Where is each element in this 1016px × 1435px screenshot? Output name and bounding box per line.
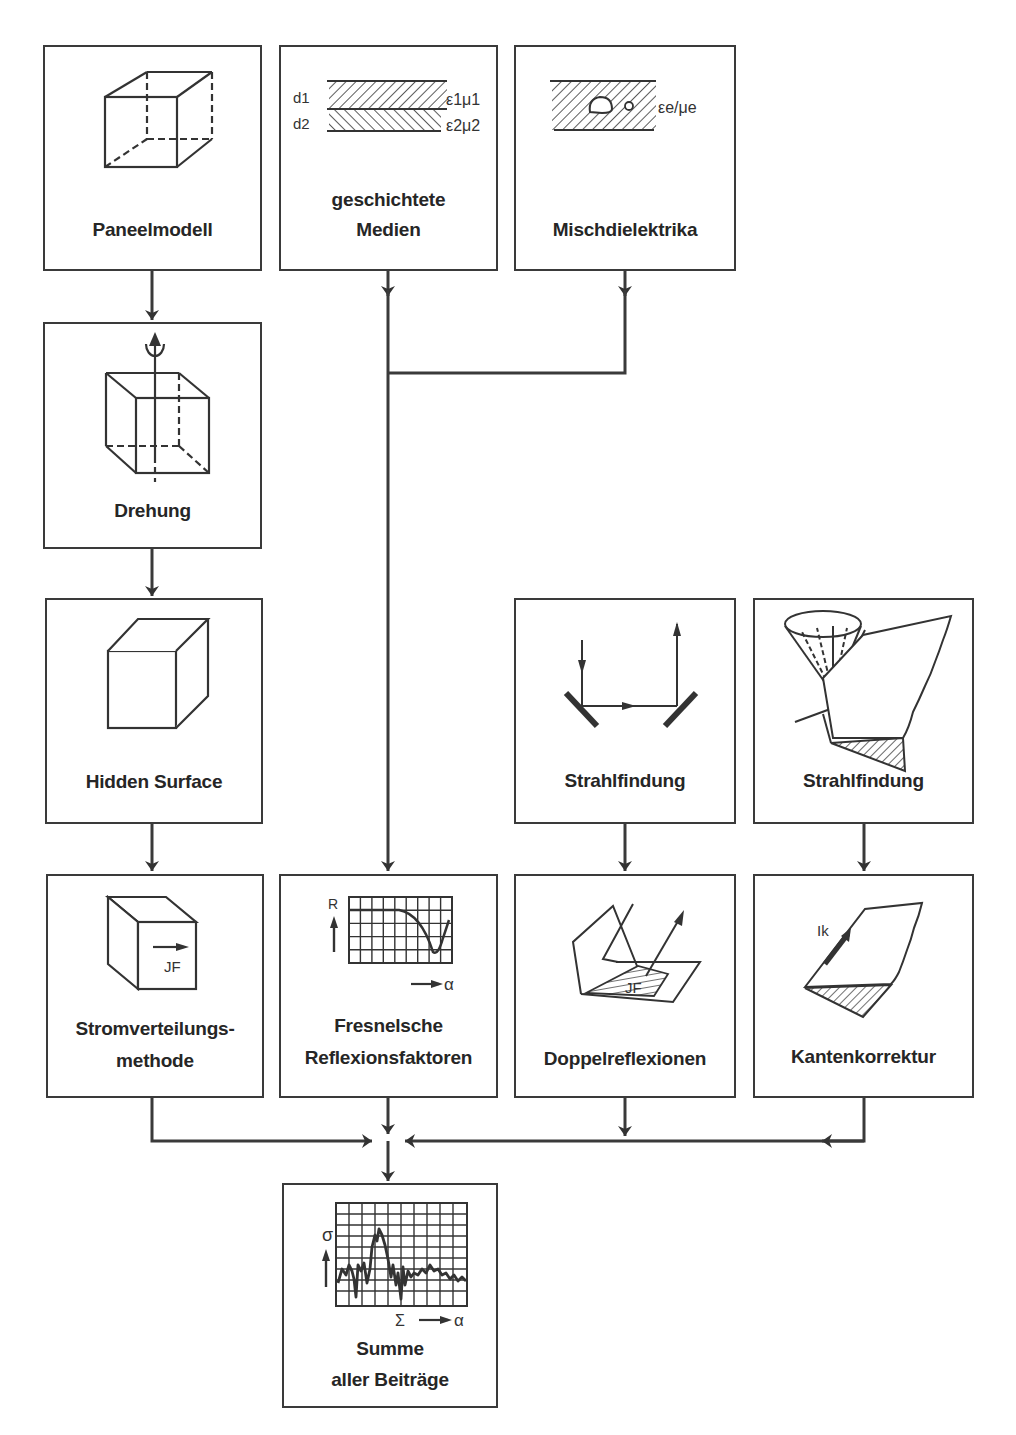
box-stromverteilung: JF Stromverteilungs- methode	[46, 874, 264, 1098]
label-strahlfindung-2: Strahlfindung	[755, 768, 972, 794]
box-mischdielektrika: εe/μe Mischdielektrika	[514, 45, 736, 271]
svg-text:d1: d1	[293, 89, 310, 106]
box-geschichtete-medien: d1 d2 ε1μ1 ε2μ2 geschichtete Medien	[279, 45, 498, 271]
label-geschichtete-medien-2: Medien	[281, 217, 496, 243]
svg-text:ε1μ1: ε1μ1	[446, 91, 480, 108]
label-summe-2: aller Beiträge	[284, 1367, 496, 1393]
label-mischdielektrika: Mischdielektrika	[516, 217, 734, 243]
line-kanten-bus	[822, 1096, 864, 1141]
svg-text:ε2μ2: ε2μ2	[446, 117, 480, 134]
label-doppelreflexionen: Doppelreflexionen	[516, 1046, 734, 1072]
box-fresnel: R α Fresnelsche Reflexionsfaktoren	[279, 874, 498, 1098]
label-geschichtete-medien-1: geschichtete	[281, 187, 496, 213]
svg-text:Σ: Σ	[395, 1312, 405, 1329]
svg-text:R: R	[328, 896, 338, 912]
label-stromverteilung-2: methode	[48, 1048, 262, 1074]
label-summe-1: Summe	[284, 1336, 496, 1362]
box-hidden-surface: Hidden Surface	[45, 598, 263, 824]
svg-text:σ: σ	[322, 1225, 333, 1245]
label-strahlfindung-1: Strahlfindung	[516, 768, 734, 794]
label-stromverteilung-1: Stromverteilungs-	[48, 1016, 262, 1042]
label-hidden-surface: Hidden Surface	[47, 769, 261, 795]
box-kantenkorrektur: Ik Kantenkorrektur	[753, 874, 974, 1098]
box-summe: σ Σ α Summe aller Beiträge	[282, 1183, 498, 1408]
label-paneelmodell: Paneelmodell	[45, 217, 260, 243]
svg-text:Ik: Ik	[817, 922, 829, 939]
svg-text:α: α	[454, 1311, 464, 1330]
label-fresnel-2: Reflexionsfaktoren	[281, 1045, 496, 1071]
box-strahlfindung-2: Strahlfindung	[753, 598, 974, 824]
svg-text:JF: JF	[625, 979, 642, 996]
line-misch-merge	[388, 290, 625, 373]
svg-text:d2: d2	[293, 115, 310, 132]
box-doppelreflexionen: JF Doppelreflexionen	[514, 874, 736, 1098]
svg-text:α: α	[444, 975, 454, 994]
box-strahlfindung-1: Strahlfindung	[514, 598, 736, 824]
label-fresnel-1: Fresnelsche	[281, 1013, 496, 1039]
label-drehung: Drehung	[45, 498, 260, 524]
box-paneelmodell: Paneelmodell	[43, 45, 262, 271]
svg-text:JF: JF	[164, 958, 181, 975]
label-kantenkorrektur: Kantenkorrektur	[755, 1044, 972, 1070]
box-drehung: Drehung	[43, 322, 262, 549]
line-strom-bus	[152, 1096, 372, 1141]
svg-text:εe/μe: εe/μe	[658, 99, 697, 116]
